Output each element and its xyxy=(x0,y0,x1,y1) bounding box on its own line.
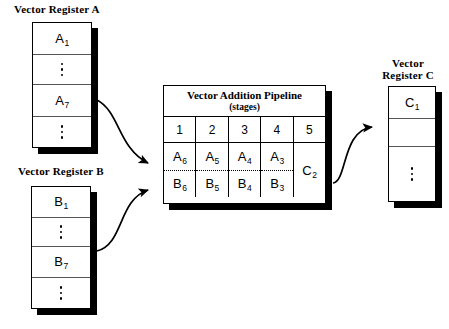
pipeline-subtitle: (stages) xyxy=(164,102,325,113)
pipeline-result-cell: C2 xyxy=(294,143,325,197)
pipeline-operand-b: B4 xyxy=(229,170,260,197)
pipeline-data-row: A6 B6 A5 B5 A4 xyxy=(164,143,325,197)
register-c-cell xyxy=(389,147,435,201)
register-c-cell-value: C1 xyxy=(405,96,419,109)
pipeline-operand-b: B6 xyxy=(164,170,195,197)
pipeline-stage-cell: A4 B4 xyxy=(229,143,261,197)
pipeline-box: Vector Addition Pipeline (stages) 1 2 3 … xyxy=(163,85,326,204)
pipeline-header: Vector Addition Pipeline (stages) xyxy=(164,86,325,117)
register-b-cell: B7 xyxy=(32,247,90,278)
register-c-cell-empty xyxy=(389,119,435,147)
pipeline-title: Vector Addition Pipeline xyxy=(164,89,325,102)
stage-number: 1 xyxy=(164,117,196,142)
pipeline-stage-cell: A3 B3 xyxy=(261,143,293,197)
register-b: B1 B7 xyxy=(31,186,91,309)
pipeline-operand-a: A4 xyxy=(229,143,260,170)
pipeline-stage-number-row: 1 2 3 4 5 xyxy=(164,117,325,143)
register-b-cell xyxy=(32,218,90,248)
operand-divider xyxy=(261,170,292,171)
register-c-label-line2: Register C xyxy=(372,69,444,81)
register-a-cell-value: A1 xyxy=(55,32,68,45)
register-a: A1 A7 xyxy=(32,22,92,148)
register-b-cell: B1 xyxy=(32,187,90,218)
stage-number: 4 xyxy=(261,117,293,142)
vertical-ellipsis-icon xyxy=(411,167,414,181)
arrow-a-input xyxy=(97,100,148,163)
register-c-label-line1: Vector xyxy=(372,57,444,69)
pipeline-operand-a: A6 xyxy=(164,143,195,170)
pipeline-operand-b: B5 xyxy=(196,170,227,197)
operand-divider xyxy=(196,170,227,171)
register-a-label: Vector Register A xyxy=(14,3,100,15)
vertical-ellipsis-icon xyxy=(61,63,64,77)
diagram-canvas: Vector Register A A1 A7 Vector Register … xyxy=(0,0,449,329)
pipeline-operand-b: B3 xyxy=(261,170,292,197)
stage-number: 5 xyxy=(294,117,325,142)
vertical-ellipsis-icon xyxy=(60,225,63,239)
register-a-cell-value: A7 xyxy=(55,94,68,107)
register-a-cell xyxy=(33,55,91,86)
operand-divider xyxy=(229,170,260,171)
stage-number: 2 xyxy=(196,117,228,142)
register-b-cell-value: B1 xyxy=(54,195,67,208)
register-c: C1 xyxy=(388,86,436,202)
register-b-cell xyxy=(32,278,90,308)
register-a-cell xyxy=(33,117,91,148)
register-a-cell: A1 xyxy=(33,23,91,55)
stage-number: 3 xyxy=(229,117,261,142)
pipeline-stage-cell: A6 B6 xyxy=(164,143,196,197)
arrow-c-output xyxy=(333,127,372,183)
arrow-b-input xyxy=(97,190,148,251)
register-b-label: Vector Register B xyxy=(18,165,104,177)
pipeline-operand-a: A3 xyxy=(261,143,292,170)
vertical-ellipsis-icon xyxy=(61,125,64,139)
pipeline-operand-a: A5 xyxy=(196,143,227,170)
register-b-cell-value: B7 xyxy=(54,255,67,268)
operand-divider xyxy=(164,170,195,171)
register-a-cell: A7 xyxy=(33,85,91,117)
pipeline-result-value: C2 xyxy=(302,164,316,177)
vertical-ellipsis-icon xyxy=(60,286,63,300)
register-c-cell: C1 xyxy=(389,87,435,119)
pipeline-stage-cell: A5 B5 xyxy=(196,143,228,197)
